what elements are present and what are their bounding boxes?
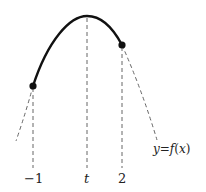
x-label-2: 2: [118, 172, 126, 185]
curve-label-close: ): [186, 142, 191, 156]
graph-canvas: [0, 0, 206, 192]
point-right: [118, 41, 125, 48]
x-label-minus1: −1: [24, 172, 43, 185]
curve-tail-right: [122, 45, 157, 140]
x-label-t: t: [84, 172, 89, 185]
curve-label-eq: =: [160, 142, 170, 156]
curve-label: y=f(x): [153, 143, 190, 155]
curve-label-x: x: [179, 142, 186, 156]
curve-solid-segment: [33, 16, 122, 86]
curve-tail-left: [16, 86, 33, 141]
point-left: [29, 82, 36, 89]
function-diagram: −1 t 2 y=f(x): [0, 0, 206, 192]
curve-label-y: y: [153, 142, 160, 156]
